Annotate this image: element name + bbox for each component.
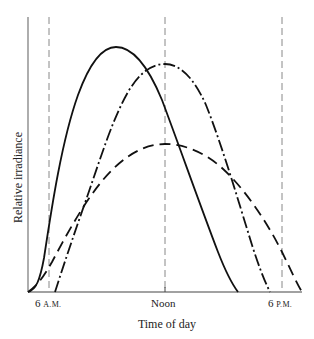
- x-axis-label: Time of day: [0, 317, 314, 332]
- y-axis-label: Relative irradiance: [11, 118, 26, 238]
- x-tick-6pm-suffix: P.M.: [276, 300, 292, 309]
- x-tick-label-noon: Noon: [151, 297, 175, 309]
- series-dash-dot-curve: [55, 64, 270, 292]
- x-tick-label-6pm: 6 P.M.: [268, 297, 292, 309]
- x-tick-6am-num: 6: [35, 297, 41, 309]
- x-tick-6pm-num: 6: [268, 297, 274, 309]
- chart-canvas: [0, 0, 314, 339]
- x-tick-6am-suffix: A.M.: [43, 300, 61, 309]
- x-tick-label-6am: 6 A.M.: [35, 297, 61, 309]
